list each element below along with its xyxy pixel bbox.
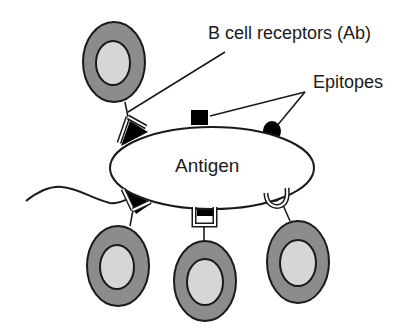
- receptors-label: B cell receptors (Ab): [208, 23, 371, 44]
- epitope-callout-line-square: [210, 92, 305, 116]
- antigen-label: Antigen: [175, 155, 239, 177]
- epitope-square-top: [191, 110, 208, 125]
- b-cell-bottom-right: [266, 188, 329, 303]
- b-cell-bottom-center: [174, 207, 236, 321]
- b-cell-bottom-left: [87, 189, 150, 306]
- epitope-callout-line-round: [276, 92, 305, 127]
- epitopes-label: Epitopes: [313, 72, 383, 93]
- b-cell-top-left: [83, 22, 146, 143]
- antigen-tail: [26, 187, 128, 203]
